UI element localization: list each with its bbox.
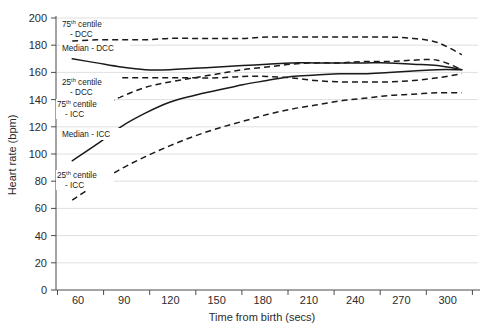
annotation-p25-icc: 25th centile - ICC: [56, 170, 114, 190]
y-tick-label: 120: [29, 121, 47, 133]
y-tick-label: 20: [35, 257, 47, 269]
y-tick-label: 200: [29, 12, 47, 24]
x-tick-label: 240: [346, 294, 364, 306]
y-tick-label: 40: [35, 230, 47, 242]
y-tick-label: 140: [29, 94, 47, 106]
y-axis-title: Heart rate (bpm): [6, 115, 18, 196]
annotation-line2: - ICC: [65, 110, 84, 119]
heart-rate-chart: 200 180 160 140 120 100 80 60 40 20 0 60…: [0, 0, 491, 331]
x-tick-label: 60: [72, 294, 84, 306]
x-tick-label: 90: [118, 294, 130, 306]
annotation-line2: - DCC: [70, 30, 93, 39]
x-tick-label: 180: [254, 294, 272, 306]
y-tick-label: 80: [35, 175, 47, 187]
x-tick-label: 150: [207, 294, 225, 306]
annotation-p75-icc: 75th centile - ICC: [56, 99, 114, 119]
annotation-p75-dcc: 75th centile - DCC: [60, 19, 120, 39]
x-tick-label: 300: [438, 294, 456, 306]
annotation-line1: 25th centile: [57, 170, 97, 180]
annotation-line1: Median - ICC: [62, 130, 110, 139]
x-axis-tick-labels: 60 90 120 150 180 210 240 270 300: [72, 294, 457, 306]
annotation-line1: Median - DCC: [62, 44, 114, 53]
x-tick-label: 120: [161, 294, 179, 306]
x-tick-label: 210: [300, 294, 318, 306]
annotation-line1: 75th centile: [62, 19, 102, 29]
y-tick-label: 100: [29, 148, 47, 160]
annotation-line1: 75th centile: [57, 99, 97, 109]
annotation-line1: 25th centile: [62, 77, 102, 87]
y-tick-label: 60: [35, 202, 47, 214]
annotation-line2: - DCC: [70, 88, 93, 97]
annotation-median-icc: Median - ICC: [60, 128, 126, 140]
chart-svg: 200 180 160 140 120 100 80 60 40 20 0 60…: [0, 0, 491, 331]
x-axis-title: Time from birth (secs): [209, 311, 316, 323]
annotation-median-dcc: Median - DCC: [60, 42, 130, 54]
annotation-line2: - ICC: [65, 181, 84, 190]
x-tick-label: 270: [392, 294, 410, 306]
annotation-p25-dcc: 25th centile - DCC: [60, 77, 120, 97]
y-tick-label: 180: [29, 39, 47, 51]
y-tick-label: 160: [29, 66, 47, 78]
y-tick-label: 0: [41, 284, 47, 296]
